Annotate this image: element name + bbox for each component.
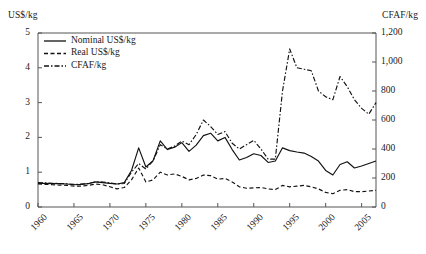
y-tick-left: 1	[8, 166, 30, 176]
legend-label-1: Real US$/kg	[71, 47, 120, 57]
y-tick-right: 1,000	[381, 56, 415, 66]
y-tick-right: 200	[381, 172, 415, 182]
y-tick-right: 400	[381, 143, 415, 153]
y-tick-left: 5	[8, 27, 30, 37]
series-line-0	[38, 133, 376, 185]
legend-label-2: CFAF/kg	[71, 60, 106, 70]
y-tick-right: 1,200	[381, 27, 415, 37]
y-tick-right: 0	[381, 201, 415, 211]
y-tick-left: 2	[8, 131, 30, 141]
legend-label-0: Nominal US$/kg	[71, 35, 136, 45]
y-tick-left: 4	[8, 62, 30, 72]
y-tick-left: 3	[8, 97, 30, 107]
price-trend-chart: US$/kg CFAF/kg 01234502004006008001,0001…	[0, 0, 426, 254]
y-tick-right: 800	[381, 85, 415, 95]
y-tick-left: 0	[8, 201, 30, 211]
series-line-1	[38, 168, 376, 194]
y-tick-right: 600	[381, 114, 415, 124]
